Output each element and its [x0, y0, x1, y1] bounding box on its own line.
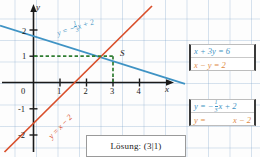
x-ticklabel-2: 2 — [84, 86, 88, 96]
y-ticklabel-neg2: -2 — [18, 130, 25, 140]
y-axis-label: y — [36, 2, 40, 12]
solved-blue-suffix: x + 2 — [219, 101, 237, 111]
solution-box: Lösung: (3|1) — [86, 135, 186, 157]
worksheet-page: y x 2 1 0 -1 -2 1 2 3 4 S y = −13x + 2 y… — [0, 0, 260, 157]
solved-blue-fraction: 13 — [215, 99, 218, 113]
solved-orange-suffix: x − 2 — [233, 115, 251, 125]
system-equations-box: x + 3y = 6 x − y = 2 — [189, 44, 256, 71]
y-ticklabel-2: 2 — [22, 26, 26, 36]
coordinate-plot — [0, 0, 260, 157]
solution-text: Lösung: (3|1) — [110, 141, 161, 151]
x-ticklabel-1: 1 — [57, 86, 61, 96]
y-ticklabel-neg1: -1 — [18, 104, 25, 114]
solved-blue-prefix: y = − — [194, 101, 214, 111]
system-equation-blue: x + 3y = 6 — [191, 45, 254, 58]
y-ticklabel-1: 1 — [22, 51, 26, 61]
intersection-label-s: S — [120, 48, 125, 58]
x-ticklabel-3: 3 — [110, 86, 114, 96]
line-blue — [0, 26, 185, 84]
x-axis-label: x — [165, 84, 169, 94]
solved-equation-blue: y = −13x + 2 — [191, 100, 254, 113]
system-equation-orange: x − y = 2 — [191, 58, 254, 71]
solved-equations-box: y = −13x + 2 y =x − 2 — [189, 99, 256, 126]
x-ticklabel-4: 4 — [137, 86, 141, 96]
solved-orange-prefix: y = — [194, 115, 206, 125]
x-ticklabel-0: 0 — [21, 86, 25, 96]
solved-equation-orange: y =x − 2 — [191, 113, 254, 126]
